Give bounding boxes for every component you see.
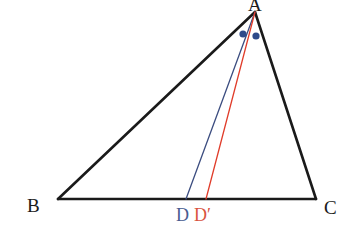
vertex-label-b: B bbox=[27, 196, 40, 215]
side-AB bbox=[58, 12, 255, 199]
point-label-d: D bbox=[176, 206, 189, 224]
angle-dot-right-icon bbox=[252, 32, 259, 39]
triangle-figure-svg bbox=[0, 0, 353, 234]
vertex-label-c: C bbox=[324, 198, 337, 217]
point-label-d-prime: D′ bbox=[194, 206, 211, 224]
cevian-ADprime-red bbox=[206, 12, 255, 199]
geometry-diagram-canvas: A B C D D′ bbox=[0, 0, 353, 234]
vertex-label-a: A bbox=[248, 0, 262, 14]
cevian-AD-blue bbox=[186, 12, 255, 199]
angle-dot-left-icon bbox=[239, 30, 246, 37]
side-AC bbox=[255, 12, 316, 199]
